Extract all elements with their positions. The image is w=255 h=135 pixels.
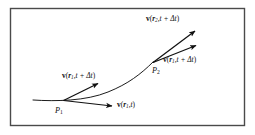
point-subscript: 1 [60,109,63,115]
plus-delta-t: + Δt [162,14,177,23]
plus-delta-t: + Δt [78,71,93,80]
paren-close: ) [93,71,95,80]
label-v-r1-t-plus-delta-t-at-p1: v(r1,t + Δt) [62,72,95,80]
paren-close: ) [177,14,179,23]
paren-close: ) [194,55,196,64]
label-v-r1-t: v(r1,t) [117,101,135,109]
figure-canvas [0,0,255,135]
plus-delta-t: + Δt [179,55,194,64]
velocity-field-figure: v(r2,t + Δt) v(r1,t + Δt) v(r1,t + Δt) v… [0,0,255,135]
point-label-p2: P2 [152,67,160,76]
point-label-p1: P1 [55,107,63,116]
point-subscript: 2 [157,69,160,75]
label-v-r2-t-plus-delta-t: v(r2,t + Δt) [146,15,179,23]
paren-close: ) [133,100,135,109]
label-v-r1-t-plus-delta-t-at-p2: v(r1,t + Δt) [163,56,196,64]
